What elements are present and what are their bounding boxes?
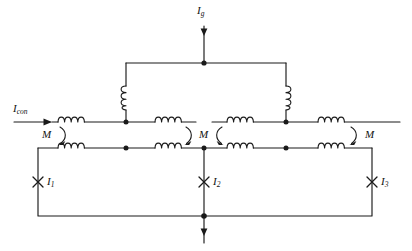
junction-node-right-lower (284, 146, 289, 151)
vertical-coil-left-windings (121, 86, 126, 110)
label-loop-current-3: I3 (381, 176, 388, 189)
loop-current-crosses (33, 177, 377, 187)
label-loop-current-2-subscript: 2 (217, 180, 221, 189)
mutual-arrow-right (350, 127, 357, 145)
upper-coil-3 (227, 117, 253, 122)
upper-coil-1 (58, 117, 84, 122)
lower-coil-4 (318, 143, 344, 148)
mutual-arrow-middle-left (185, 127, 192, 145)
top-loop-rails (126, 63, 286, 122)
mutual-arrow-left (59, 127, 66, 145)
vertical-inductor-left (121, 86, 126, 110)
bottom-current-arrowhead (201, 229, 208, 237)
junction-node-left-upper (124, 120, 129, 125)
vertical-coil-right-windings (286, 86, 291, 110)
vertical-inductor-right (286, 86, 291, 110)
top-current-arrowhead (201, 29, 208, 37)
label-loop-current-1-subscript: 1 (51, 180, 55, 189)
circuit-diagram-canvas: Icon Ig M M M I1 I2 I3 (0, 0, 412, 251)
upper-horizontal-rail (14, 117, 400, 125)
upper-coil-2 (155, 117, 181, 122)
top-source-branch (201, 26, 208, 66)
label-mutual-right: M (365, 129, 374, 140)
circuit-schematic-svg (0, 0, 412, 251)
label-top-current: Ig (197, 5, 204, 18)
lower-coil-3 (227, 143, 253, 148)
mutual-arrow-middle-right (217, 127, 224, 145)
bottom-loop-wire (38, 148, 372, 216)
outer-bottom-loop (38, 148, 372, 243)
label-mutual-left: M (42, 129, 51, 140)
upper-coil-4 (318, 117, 344, 122)
lower-coil-2 (155, 143, 181, 148)
junction-node-left-lower (124, 146, 129, 151)
junction-node-right-upper (284, 120, 289, 125)
label-source-current-subscript: con (17, 107, 28, 116)
label-loop-current-2: I2 (213, 176, 220, 189)
label-source-current: Icon (13, 103, 27, 116)
label-top-current-subscript: g (201, 9, 205, 18)
label-mutual-middle: M (199, 129, 208, 140)
label-loop-current-1: I1 (47, 176, 54, 189)
label-loop-current-3-subscript: 3 (385, 180, 389, 189)
source-current-arrowhead (44, 119, 53, 126)
